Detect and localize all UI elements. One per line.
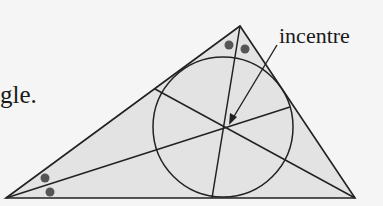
angle-dot-apex-left — [225, 41, 234, 50]
angle-dot-left-upper — [41, 174, 50, 183]
angle-dot-apex-right — [241, 45, 250, 54]
incentre-label: incentre — [279, 23, 350, 48]
angle-dot-left-lower — [46, 188, 55, 197]
incentre-diagram: gle. incentre — [0, 0, 383, 206]
triangle — [6, 26, 355, 198]
text-fragment: gle. — [0, 81, 37, 108]
